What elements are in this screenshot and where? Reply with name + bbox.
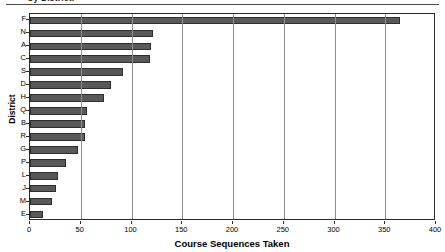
bar-F (30, 17, 400, 25)
y-tick-mark (26, 214, 29, 215)
x-tick-label-400: 400 (420, 225, 445, 234)
x-axis-title: Course Sequences Taken (29, 238, 435, 249)
x-tick-mark (283, 221, 284, 224)
bar-row (30, 208, 434, 221)
y-tick-mark (26, 136, 29, 137)
bar-H (30, 94, 104, 102)
x-tick-label-250: 250 (268, 225, 298, 234)
y-tick-label-N: N (6, 28, 26, 36)
y-tick-mark (26, 97, 29, 98)
bar-row (30, 92, 434, 105)
y-tick-label-S: S (6, 67, 26, 75)
bar-row (30, 156, 434, 169)
y-tick-mark (26, 201, 29, 202)
x-tick-mark (80, 221, 81, 224)
bar-Q (30, 107, 87, 115)
bar-row (30, 27, 434, 40)
x-tick-label-350: 350 (369, 225, 399, 234)
y-tick-mark (26, 162, 29, 163)
y-tick-label-G: G (6, 145, 26, 153)
bar-D (30, 81, 111, 89)
y-tick-mark (26, 123, 29, 124)
plot-area (29, 13, 435, 220)
gridline-250 (284, 14, 285, 219)
bar-N (30, 30, 153, 38)
x-tick-label-150: 150 (166, 225, 196, 234)
gridline-150 (182, 14, 183, 219)
bar-row (30, 66, 434, 79)
y-tick-mark (26, 71, 29, 72)
y-tick-label-F: F (6, 15, 26, 23)
x-tick-mark (384, 221, 385, 224)
bar-row (30, 14, 434, 27)
bar-row (30, 79, 434, 92)
bar-row (30, 143, 434, 156)
gridline-300 (335, 14, 336, 219)
y-axis-tick-labels: FNACSDHQBRGPLJME (0, 13, 26, 220)
bar-A (30, 43, 151, 51)
y-tick-label-A: A (6, 41, 26, 49)
y-tick-label-R: R (6, 132, 26, 140)
x-axis-tick-labels: 050100150200250300350400 (0, 221, 445, 235)
x-tick-mark (435, 221, 436, 224)
y-tick-mark (26, 58, 29, 59)
bar-M (30, 198, 52, 206)
bar-J (30, 185, 56, 193)
bar-row (30, 118, 434, 131)
bar-row (30, 182, 434, 195)
y-tick-label-H: H (6, 93, 26, 101)
bar-series (30, 14, 434, 219)
y-tick-label-L: L (6, 171, 26, 179)
y-tick-label-P: P (6, 158, 26, 166)
y-tick-label-C: C (6, 54, 26, 62)
x-tick-mark (131, 221, 132, 224)
x-tick-label-100: 100 (116, 225, 146, 234)
y-tick-mark (26, 149, 29, 150)
bar-P (30, 159, 66, 167)
bar-row (30, 195, 434, 208)
y-tick-label-D: D (6, 80, 26, 88)
y-tick-label-E: E (6, 210, 26, 218)
x-tick-mark (334, 221, 335, 224)
y-tick-mark (26, 175, 29, 176)
y-tick-mark (26, 45, 29, 46)
bar-B (30, 120, 85, 128)
y-tick-label-M: M (6, 197, 26, 205)
bar-row (30, 105, 434, 118)
y-tick-label-J: J (6, 184, 26, 192)
bar-G (30, 146, 78, 154)
bar-R (30, 133, 85, 141)
y-tick-mark (26, 110, 29, 111)
bar-L (30, 172, 58, 180)
x-tick-label-0: 0 (14, 225, 44, 234)
bar-row (30, 169, 434, 182)
gridline-100 (132, 14, 133, 219)
x-tick-mark (29, 221, 30, 224)
gridline-200 (233, 14, 234, 219)
gridline-350 (385, 14, 386, 219)
gridline-50 (81, 14, 82, 219)
x-tick-mark (232, 221, 233, 224)
y-tick-label-Q: Q (6, 106, 26, 114)
y-tick-mark (26, 84, 29, 85)
bar-S (30, 68, 123, 76)
x-tick-mark (181, 221, 182, 224)
y-tick-mark (26, 32, 29, 33)
chart-figure: by District. District FNACSDHQBRGPLJME 0… (0, 0, 445, 252)
bar-E (30, 211, 43, 219)
bar-row (30, 40, 434, 53)
header-rule (6, 4, 439, 5)
x-tick-label-200: 200 (217, 225, 247, 234)
bar-row (30, 130, 434, 143)
y-tick-mark (26, 19, 29, 20)
x-tick-label-300: 300 (319, 225, 349, 234)
y-tick-mark (26, 188, 29, 189)
x-tick-label-50: 50 (65, 225, 95, 234)
clipped-caption: by District. (28, 0, 328, 3)
y-tick-label-B: B (6, 119, 26, 127)
bar-row (30, 53, 434, 66)
